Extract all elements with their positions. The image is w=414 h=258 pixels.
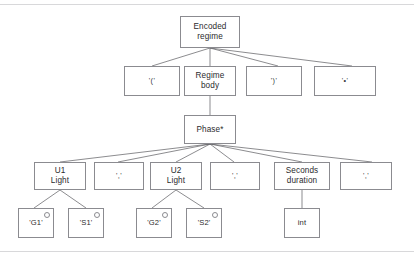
circle-marker-icon [212, 212, 218, 218]
node-separator-2[interactable]: ',' [210, 162, 260, 190]
node-separator-1[interactable]: ',' [94, 162, 144, 190]
edge-u1-light-g1 [34, 190, 60, 208]
edge-root-terminator [210, 48, 352, 66]
node-separator-3[interactable]: ',' [340, 162, 392, 190]
circle-marker-icon [162, 212, 168, 218]
node-s2[interactable]: 'S2' [186, 208, 222, 238]
edge-phase-u1-light [60, 144, 210, 162]
node-u2-light[interactable]: U2 Light [150, 162, 202, 190]
edge-u1-light-s1 [60, 190, 86, 208]
edge-u2-light-s2 [176, 190, 204, 208]
node-encoded-regime[interactable]: Encoded regime [180, 16, 240, 48]
node-g2-label: 'G2' [147, 218, 160, 228]
node-s1-label: 'S1' [80, 218, 93, 228]
node-s2-label: 'S2' [198, 218, 211, 228]
edge-u2-light-g2 [152, 190, 176, 208]
edge-root-close-paren [210, 48, 278, 66]
node-open-paren[interactable]: '(' [124, 66, 180, 96]
circle-marker-icon [94, 212, 100, 218]
top-divider [0, 4, 414, 5]
edge-phase-sep-1 [118, 144, 210, 162]
diagram-canvas: Encoded regime '(' Regime body ')' '•' P… [0, 0, 414, 258]
node-terminator[interactable]: '•' [314, 66, 376, 96]
edge-phase-u2-light [176, 144, 210, 162]
bottom-divider [0, 251, 414, 252]
circle-marker-icon [44, 212, 50, 218]
edge-root-open-paren [152, 48, 210, 66]
node-g1-label: 'G1' [29, 218, 42, 228]
node-g2[interactable]: 'G2' [136, 208, 172, 238]
node-seconds-duration[interactable]: Seconds duration [274, 162, 330, 190]
node-regime-body[interactable]: Regime body [184, 66, 236, 96]
edge-phase-sep-2 [210, 144, 234, 162]
node-int[interactable]: int [284, 208, 320, 238]
node-u1-light[interactable]: U1 Light [34, 162, 86, 190]
node-phase[interactable]: Phase* [184, 115, 236, 144]
node-s1[interactable]: 'S1' [68, 208, 104, 238]
node-close-paren[interactable]: ')' [246, 66, 302, 96]
edge-phase-sep-3 [210, 144, 372, 162]
node-g1[interactable]: 'G1' [18, 208, 54, 238]
edge-phase-seconds-duration [210, 144, 302, 162]
